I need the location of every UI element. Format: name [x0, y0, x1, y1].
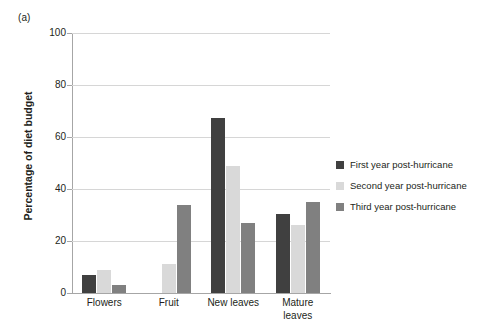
y-tick-mark	[67, 293, 72, 294]
legend-item[interactable]: Second year post-hurricane	[336, 175, 467, 196]
y-tick-label: 100	[26, 27, 66, 38]
legend-item[interactable]: Third year post-hurricane	[336, 196, 467, 217]
figure-panel: (a) Percentage of diet budget First year…	[0, 0, 490, 336]
legend-swatch-icon	[336, 161, 344, 169]
bar-group	[276, 33, 320, 293]
bar-group	[147, 33, 191, 293]
legend-label: Third year post-hurricane	[350, 201, 456, 212]
legend-label: First year post-hurricane	[350, 159, 453, 170]
y-tick-label: 80	[26, 79, 66, 90]
x-tick-label: Matureleaves	[256, 297, 341, 322]
bar	[276, 214, 290, 293]
y-tick-mark	[67, 189, 72, 190]
bar-group	[211, 33, 255, 293]
bar-group	[82, 33, 126, 293]
panel-label: (a)	[18, 12, 31, 23]
bar	[291, 225, 305, 293]
bar	[177, 205, 191, 293]
bar	[241, 223, 255, 293]
bar	[82, 275, 96, 293]
plot-area	[72, 33, 330, 293]
y-tick-mark	[67, 241, 72, 242]
bar	[162, 264, 176, 293]
legend-label: Second year post-hurricane	[350, 180, 467, 191]
y-tick-mark	[67, 85, 72, 86]
y-tick-label: 20	[26, 235, 66, 246]
legend-swatch-icon	[336, 203, 344, 211]
bar	[97, 270, 111, 293]
x-axis-line	[72, 293, 331, 294]
y-tick-label: 60	[26, 131, 66, 142]
y-tick-mark	[67, 33, 72, 34]
legend-swatch-icon	[336, 182, 344, 190]
bar	[306, 202, 320, 293]
legend-item[interactable]: First year post-hurricane	[336, 154, 467, 175]
y-tick-label: 0	[26, 287, 66, 298]
bar	[211, 118, 225, 294]
bar	[226, 166, 240, 293]
y-tick-label: 40	[26, 183, 66, 194]
y-tick-mark	[67, 137, 72, 138]
bar	[112, 285, 126, 293]
legend: First year post-hurricaneSecond year pos…	[336, 154, 467, 217]
